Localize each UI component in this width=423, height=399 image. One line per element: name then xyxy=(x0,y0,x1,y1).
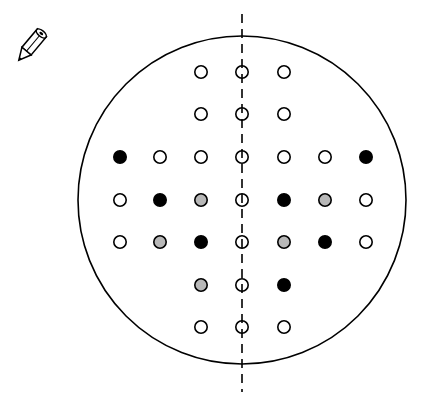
dot-filled xyxy=(278,279,290,291)
dot-filled xyxy=(114,151,126,163)
dot-filled xyxy=(154,194,166,206)
dot-filled xyxy=(195,236,207,248)
dot-gray xyxy=(195,194,207,206)
dot-open xyxy=(278,151,290,163)
dot-filled xyxy=(360,151,372,163)
dot-grid xyxy=(114,66,372,333)
dot-filled xyxy=(319,236,331,248)
dot-open xyxy=(154,151,166,163)
dot-open xyxy=(195,108,207,120)
dot-open xyxy=(360,236,372,248)
dot-open xyxy=(195,321,207,333)
dot-open xyxy=(360,194,372,206)
dot-open xyxy=(114,236,126,248)
pencil-icon[interactable] xyxy=(14,27,48,64)
dot-open xyxy=(319,151,331,163)
dot-gray xyxy=(319,194,331,206)
dot-open xyxy=(114,194,126,206)
dot-open xyxy=(195,66,207,78)
dot-open xyxy=(278,108,290,120)
dot-open xyxy=(195,151,207,163)
dot-gray xyxy=(195,279,207,291)
dot-filled xyxy=(278,194,290,206)
dot-open xyxy=(278,66,290,78)
dot-open xyxy=(278,321,290,333)
dot-gray xyxy=(278,236,290,248)
dot-gray xyxy=(154,236,166,248)
dot-field-diagram xyxy=(0,0,423,399)
